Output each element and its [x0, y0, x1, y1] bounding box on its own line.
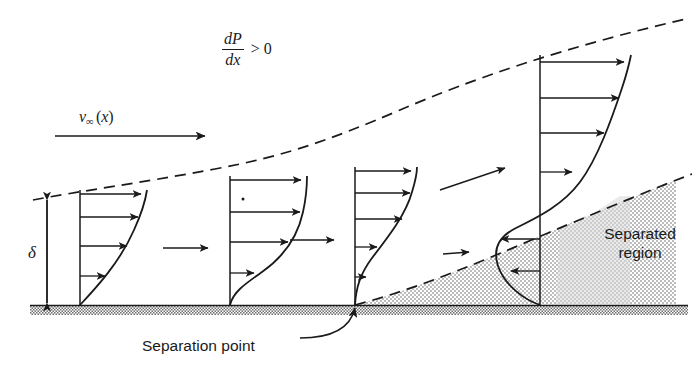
pressure-gradient-relation: > 0: [251, 40, 272, 58]
velocity-profile-3: [355, 167, 417, 305]
pressure-gradient-fraction: dP dx: [222, 30, 244, 69]
profile-1-curve: [80, 190, 147, 305]
connector-arrow-4: [443, 252, 469, 254]
profile-3-arrows: [355, 171, 411, 277]
boundary-layer-separation-figure: dP dx > 0 v∞(x) δ Separated region Separ…: [0, 0, 696, 375]
pressure-gradient-label: dP dx > 0: [222, 30, 272, 69]
freestream-subscript: ∞: [86, 116, 94, 127]
separation-point-label: Separation point: [142, 337, 255, 355]
profile-2-dot: [242, 198, 245, 201]
figure-canvas: [0, 0, 696, 375]
wall: [30, 306, 688, 316]
freestream-argument: (x): [96, 108, 114, 125]
connector-arrows: [163, 168, 505, 254]
boundary-layer-thickness-label: δ: [28, 243, 36, 263]
profile-3-curve: [355, 167, 417, 305]
freestream-velocity-label: v∞(x): [79, 108, 114, 127]
profile-2-arrows: [230, 180, 301, 273]
separated-region-label: Separated region: [588, 224, 692, 262]
connector-arrow-3: [440, 168, 505, 190]
pressure-gradient-denominator: dx: [223, 50, 242, 69]
pressure-gradient-numerator: dP: [222, 30, 244, 49]
velocity-profile-1: [80, 190, 147, 305]
boundary-layer-edge-curve: [33, 18, 690, 200]
